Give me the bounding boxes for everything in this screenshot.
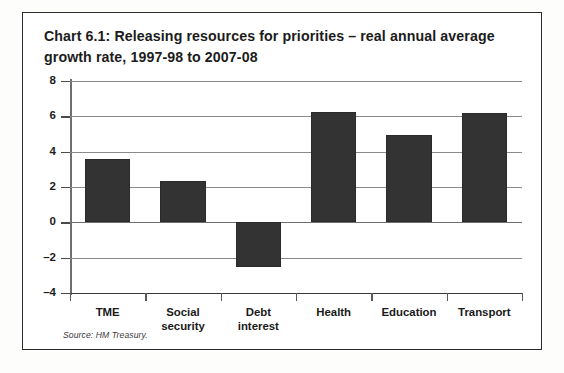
gridline-8: [70, 81, 522, 82]
source-note: Source: HM Treasury.: [63, 330, 148, 340]
x-tick-mark: [296, 293, 297, 301]
gridline-2: [70, 187, 522, 188]
x-axis-category-label: Health: [296, 305, 371, 319]
bar-health: [311, 112, 356, 222]
x-axis-category-label-line: Social: [145, 305, 220, 319]
x-tick-mark: [371, 293, 372, 301]
gridline-4: [70, 152, 522, 153]
y-axis-tick-label: 8: [30, 74, 56, 86]
plot-area: [70, 81, 522, 293]
x-axis-category-label-line: Education: [371, 305, 446, 319]
y-axis-tick-label: 2: [30, 180, 56, 192]
y-tick-mark-8: [61, 81, 70, 82]
y-axis-tick-label: –4: [30, 286, 56, 298]
x-tick-mark: [70, 293, 71, 301]
x-axis-category-label: Socialsecurity: [145, 305, 220, 333]
x-tick-mark-end: [522, 293, 523, 301]
chart-title: Chart 6.1: Releasing resources for prior…: [44, 26, 514, 68]
x-tick-mark: [221, 293, 222, 301]
gridline-6: [70, 116, 522, 117]
y-tick-mark-4: [61, 152, 70, 153]
x-axis-category-label: Debtinterest: [221, 305, 296, 333]
y-tick-mark-0: [61, 222, 70, 223]
y-axis-tick-label: –2: [30, 251, 56, 263]
x-axis-category-label-line: Debt: [221, 305, 296, 319]
x-tick-mark: [145, 293, 146, 301]
x-axis-category-label: TME: [70, 305, 145, 319]
bar-social-security: [160, 181, 205, 223]
bar-debt-interest: [236, 222, 281, 267]
x-tick-mark: [447, 293, 448, 301]
y-tick-mark--2: [61, 258, 70, 259]
y-tick-mark--4: [61, 293, 70, 294]
bar-transport: [462, 113, 507, 223]
bar-tme: [85, 159, 130, 223]
bar-education: [386, 135, 431, 222]
y-axis-tick-label: 4: [30, 145, 56, 157]
x-axis-category-label: Education: [371, 305, 446, 319]
y-axis-tick-label: 6: [30, 109, 56, 121]
y-tick-mark-2: [61, 187, 70, 188]
chart-figure: Chart 6.1: Releasing resources for prior…: [0, 0, 564, 373]
x-axis-category-label-line: Health: [296, 305, 371, 319]
x-axis-category-label-line: interest: [221, 319, 296, 333]
y-tick-mark-6: [61, 116, 70, 117]
x-axis-category-label-line: Transport: [447, 305, 522, 319]
gridline--2: [70, 258, 522, 259]
gridline-0: [70, 222, 522, 223]
x-axis-category-label-line: security: [145, 319, 220, 333]
x-axis-category-label: Transport: [447, 305, 522, 319]
y-axis-tick-label: 0: [30, 215, 56, 227]
x-axis-category-label-line: TME: [70, 305, 145, 319]
